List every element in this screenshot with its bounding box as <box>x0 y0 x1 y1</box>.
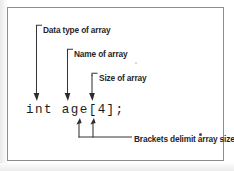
callout-label-name: Name of array <box>74 50 127 58</box>
callout-label-data-type: Data type of array <box>43 26 110 34</box>
arrowhead-data-type <box>34 93 40 101</box>
arrowhead-size <box>89 93 95 101</box>
arrowhead-bracket-right <box>90 118 95 125</box>
scan-speck-faint <box>135 62 137 64</box>
arrowhead-name <box>65 93 71 101</box>
leader-line-data-type <box>37 25 42 27</box>
leader-line-name <box>68 49 73 51</box>
leader-line-layer <box>0 0 234 171</box>
callout-label-size: Size of array <box>99 74 146 82</box>
figure-root: Data type of array Name of array Size of… <box>0 0 234 171</box>
arrowhead-bracket-left <box>76 118 81 125</box>
callout-label-brackets: Brackets delimit array size. <box>134 135 234 143</box>
scan-speck <box>199 133 202 136</box>
leader-line-size <box>92 73 97 75</box>
code-declaration: int age[4]; <box>26 104 125 117</box>
